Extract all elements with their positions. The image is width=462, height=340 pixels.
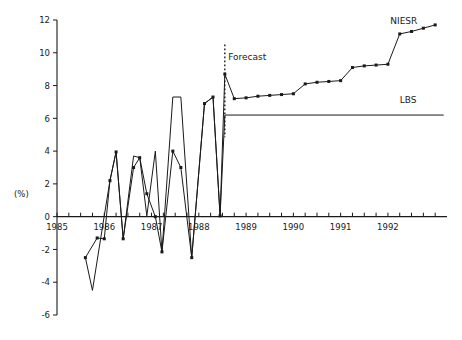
x-axis-tick-label: 1989 [235, 222, 257, 232]
data-point-marker [339, 79, 342, 82]
data-point-marker [398, 32, 401, 35]
data-point-marker [434, 23, 437, 26]
data-point-marker [386, 63, 389, 66]
y-axis-tick-label: 8 [45, 81, 50, 91]
data-point-marker [233, 97, 236, 100]
data-point-marker [316, 81, 319, 84]
data-point-marker [154, 215, 157, 218]
y-axis-tick-label: 0 [45, 212, 50, 222]
data-point-marker [96, 236, 99, 239]
data-point-marker [245, 96, 248, 99]
x-axis-tick-label: 1986 [93, 222, 115, 232]
y-axis-tick-label: 12 [39, 15, 50, 25]
x-axis-tick-label: 1988 [188, 222, 210, 232]
y-axis: -6-4-2024681012(%) [14, 15, 57, 320]
data-point-marker [103, 237, 106, 240]
data-point-marker [171, 150, 174, 153]
data-point-marker [327, 80, 330, 83]
data-point-marker [375, 64, 378, 67]
y-axis-tick-label: 4 [45, 146, 50, 156]
y-axis-tick-label: 6 [45, 114, 50, 124]
y-axis-tick-label: 2 [45, 179, 50, 189]
data-point-marker [179, 166, 182, 169]
forecast-divider-label: Forecast [228, 52, 267, 62]
niesr-series-label: NIESR [390, 16, 417, 26]
x-axis-tick-label: 1987 [141, 222, 163, 232]
data-point-marker [268, 94, 271, 97]
x-axis-tick-label: 1985 [46, 222, 68, 232]
y-axis-unit-label: (%) [14, 189, 29, 199]
data-point-marker [351, 66, 354, 69]
data-point-marker [410, 30, 413, 33]
x-axis-tick-label: 1992 [377, 222, 399, 232]
y-axis-tick-label: -6 [42, 310, 50, 320]
y-axis-tick-label: -2 [42, 245, 50, 255]
y-axis-tick-label: 10 [39, 48, 50, 58]
x-axis-tick-label: 1990 [283, 222, 305, 232]
data-point-marker [256, 95, 259, 98]
x-axis-tick-label: 1991 [330, 222, 352, 232]
chart-container: -6-4-2024681012(%) 198519861987198819891… [0, 0, 462, 340]
data-series-group [84, 23, 444, 290]
data-point-marker [280, 93, 283, 96]
data-point-marker [304, 82, 307, 85]
data-point-marker [145, 192, 148, 195]
lbs-series-label: LBS [400, 95, 417, 105]
series-line-lbs [85, 97, 443, 290]
data-point-marker [292, 92, 295, 95]
data-point-marker [363, 64, 366, 67]
line-chart: -6-4-2024681012(%) 198519861987198819891… [0, 0, 462, 340]
data-point-marker [422, 27, 425, 30]
y-axis-tick-label: -4 [42, 277, 50, 287]
